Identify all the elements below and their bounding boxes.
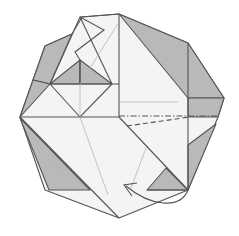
diagram-canvas [0, 0, 239, 236]
right-gray-flap-mid [188, 98, 224, 117]
origami-diagram [0, 0, 239, 236]
